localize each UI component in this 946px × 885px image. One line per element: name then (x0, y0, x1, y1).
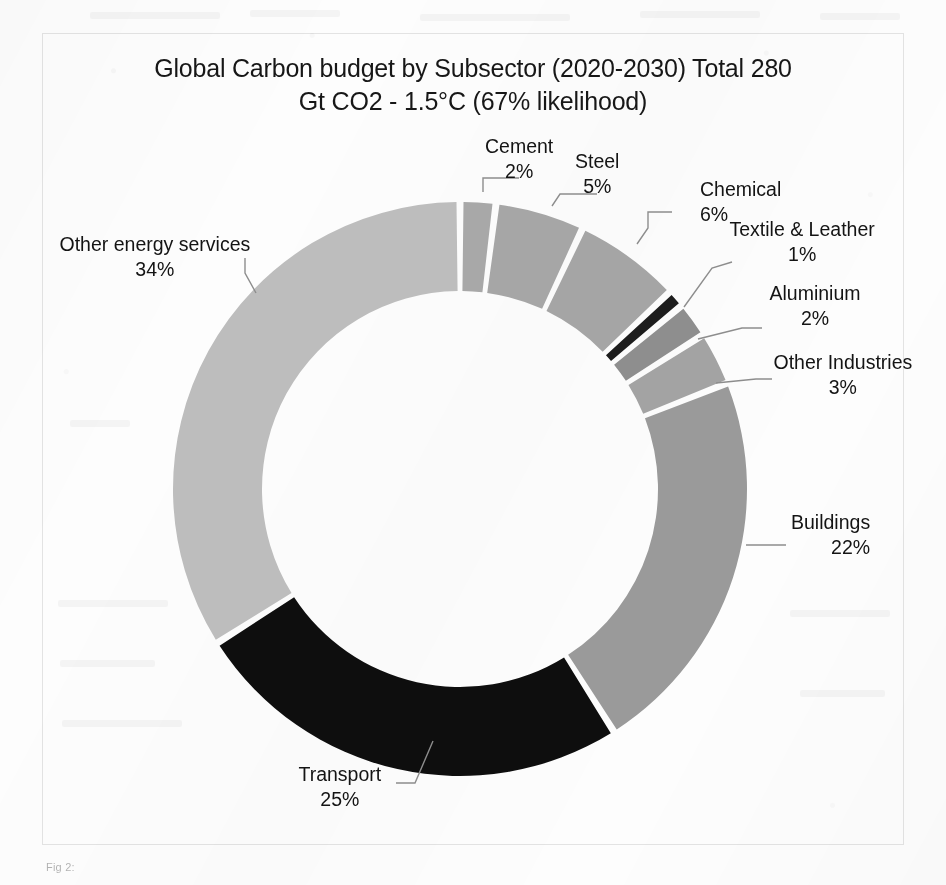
slice-label: Textile & Leather1% (730, 217, 875, 267)
slice-label-percent: 25% (299, 787, 382, 812)
slice-label-percent: 5% (575, 174, 619, 199)
slice-label-name: Cement (485, 135, 553, 157)
slice-label-percent: 3% (774, 375, 913, 400)
donut-slice[interactable] (220, 597, 611, 776)
slice-label-name: Other energy services (60, 233, 251, 255)
slice-label-percent: 2% (770, 306, 861, 331)
slice-label: Aluminium2% (770, 281, 861, 331)
slice-label-percent: 34% (60, 257, 251, 282)
slice-label: Steel5% (575, 149, 619, 199)
slice-label: Other Industries3% (774, 350, 913, 400)
leader-line (698, 328, 762, 339)
slice-label-name: Chemical (700, 178, 781, 200)
slice-label-name: Textile & Leather (730, 218, 875, 240)
donut-chart-svg (0, 0, 946, 885)
slice-label: Transport25% (299, 762, 382, 812)
slice-label-name: Steel (575, 150, 619, 172)
figure-caption: Fig 2: (46, 861, 75, 873)
donut-slices (173, 202, 747, 776)
slice-label-name: Aluminium (770, 282, 861, 304)
slice-label-name: Other Industries (774, 351, 913, 373)
slice-label: Cement2% (485, 134, 553, 184)
donut-chart (0, 0, 946, 885)
slice-label-percent: 1% (730, 242, 875, 267)
slice-label-percent: 22% (791, 535, 870, 560)
donut-slice[interactable] (462, 202, 492, 292)
slice-label-name: Transport (299, 763, 382, 785)
slice-label-percent: 2% (485, 159, 553, 184)
leader-line (637, 212, 672, 244)
scanned-page: Global Carbon budget by Subsector (2020-… (0, 0, 946, 885)
donut-slice[interactable] (568, 387, 747, 730)
slice-label: Buildings22% (791, 510, 870, 560)
slice-label-name: Buildings (791, 511, 870, 533)
slice-label: Other energy services34% (60, 232, 251, 282)
leader-line (684, 262, 732, 307)
